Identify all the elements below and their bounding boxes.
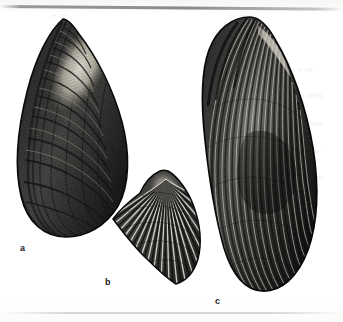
figure-label-b: b [105, 278, 111, 287]
figure-label-a: a [20, 244, 25, 253]
figure-c-shell [196, 12, 324, 296]
figure-label-c: c [215, 297, 220, 306]
shell-plate-figure: e re n tem or rust s tor em an e re or r… [0, 0, 343, 322]
shell-illustration [0, 0, 343, 322]
